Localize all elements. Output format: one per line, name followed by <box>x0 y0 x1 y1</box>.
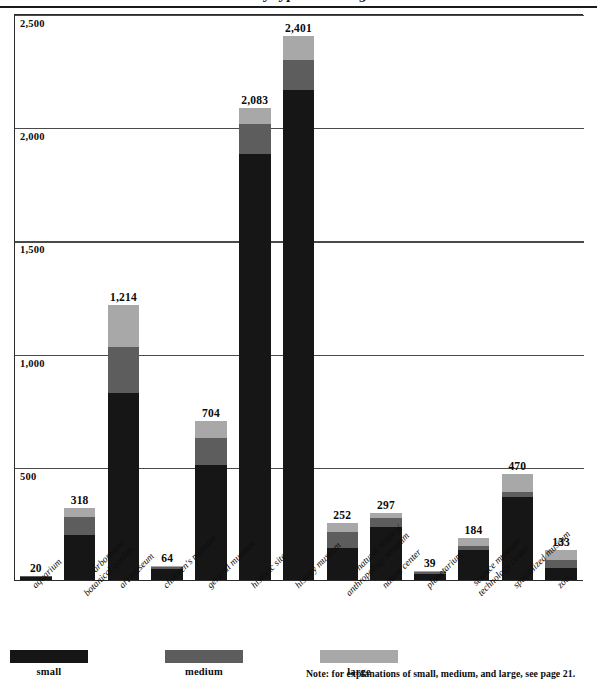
bar-segment-medium <box>108 347 140 393</box>
bar-value-label: 2,083 <box>241 94 268 106</box>
bar-segment-large <box>108 305 140 347</box>
bar-value-label: 184 <box>465 524 483 536</box>
legend-label-small: small <box>10 666 88 677</box>
bar-segment-large <box>327 523 359 532</box>
bar-value-label: 318 <box>71 494 89 506</box>
bar-segment-medium <box>545 560 577 568</box>
legend-label-medium: medium <box>165 666 243 677</box>
legend-swatch-large <box>320 650 398 663</box>
figure-note: Note: for explanations of small, medium,… <box>306 668 575 679</box>
bar-segment-small <box>283 90 315 580</box>
x-axis-labels: aquariumarboretum/botanical gardenart mu… <box>14 583 583 645</box>
bar-history-museum[interactable]: 2,401 <box>283 36 315 580</box>
legend-item-medium[interactable]: medium <box>165 650 243 677</box>
bar-value-label: 252 <box>333 509 351 521</box>
legend-item-small[interactable]: small <box>10 650 88 677</box>
bar-segment-large <box>458 538 490 546</box>
bar-segment-large <box>283 36 315 60</box>
bar-value-label: 704 <box>202 407 220 419</box>
bar-value-label: 64 <box>161 552 173 564</box>
bar-segment-small <box>239 154 271 581</box>
bar-value-label: 470 <box>508 460 526 472</box>
bar-value-label: 297 <box>377 499 395 511</box>
bar-value-label: 2,401 <box>285 22 312 34</box>
bar-art-museum[interactable]: 1,214 <box>108 305 140 580</box>
bar-segment-large <box>195 421 227 439</box>
bar-value-label: 1,214 <box>110 291 137 303</box>
bar-segment-medium <box>283 60 315 90</box>
bar-value-label: 39 <box>424 557 436 569</box>
bar-historic-site[interactable]: 2,083 <box>239 108 271 580</box>
legend-swatch-medium <box>165 650 243 663</box>
bar-segment-medium <box>195 438 227 465</box>
bar-segment-large <box>64 508 96 517</box>
bar-segment-large <box>502 474 534 493</box>
legend-swatch-small <box>10 650 88 663</box>
bar-segment-medium <box>64 517 96 535</box>
bar-segment-medium <box>239 124 271 154</box>
bars-layer: 203181,214647042,0832,401252297391844701… <box>14 14 583 580</box>
chart-legend: smallmediumlarge <box>10 650 310 686</box>
bar-segment-large <box>239 108 271 123</box>
title-divider <box>0 6 597 8</box>
